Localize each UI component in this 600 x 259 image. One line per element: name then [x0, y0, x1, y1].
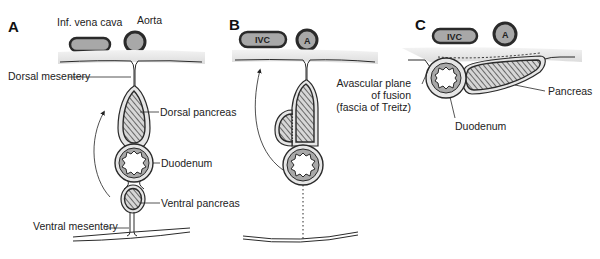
panel-a-label: A	[8, 18, 19, 35]
rotation-arrow	[94, 112, 110, 197]
duodenum-c	[426, 58, 466, 98]
ventral-pancreas	[125, 189, 142, 210]
fusion-plane-label-line1: Avascular plane	[336, 77, 411, 89]
ivc-vessel	[70, 38, 110, 51]
dorsal-pancreas-label: Dorsal pancreas	[160, 106, 236, 118]
ventral-mesentery-label: Ventral mesentery	[33, 220, 118, 232]
aorta-vessel	[125, 32, 145, 52]
duodenum-label-a: Duodenum	[161, 157, 213, 169]
aorta-label: Aorta	[137, 14, 162, 26]
panel-a: A Inf. vena cava Aorta Dorsal mesentery …	[8, 14, 240, 241]
fusion-plane-label-line2: of fusion	[371, 89, 411, 101]
pancreas-label-c: Pancreas	[548, 85, 592, 97]
pancreas-development-diagram: A Inf. vena cava Aorta Dorsal mesentery …	[0, 0, 600, 259]
panel-b-label: B	[229, 16, 240, 33]
duodenum-b	[283, 145, 323, 185]
dorsal-mesentery-label: Dorsal mesentery	[8, 70, 91, 82]
ventral-pancreas-label: Ventral pancreas	[161, 197, 240, 209]
panel-c-label: C	[415, 16, 426, 33]
dorsal-pancreas-b	[296, 84, 314, 142]
aorta-abbrev-b: A	[304, 36, 311, 46]
panel-c: C IVC A Avascular plane of fusion (fasci…	[336, 16, 592, 132]
ivc-label: Inf. vena cava	[57, 16, 123, 28]
duodenum-label-c: Duodenum	[455, 120, 507, 132]
duodenum	[115, 144, 153, 182]
anterior-abdominal-wall-b	[243, 232, 358, 242]
panel-b: B IVC A	[229, 16, 378, 242]
dorsal-mesentery	[131, 61, 138, 86]
aorta-abbrev-c: A	[502, 30, 509, 40]
ivc-abbrev-b: IVC	[255, 35, 271, 45]
ivc-abbrev-c: IVC	[447, 32, 463, 42]
fusion-plane-label-line3: (fascia of Treitz)	[336, 101, 411, 113]
